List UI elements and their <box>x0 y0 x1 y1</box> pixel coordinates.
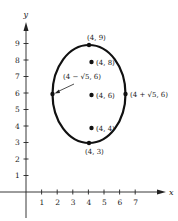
arrowhead-icon <box>55 90 61 94</box>
focus-upper-dot <box>89 60 93 64</box>
right-covertex-label: (4 + √5, 6) <box>130 91 168 99</box>
focus-lower-label: (4, 4) <box>96 125 115 133</box>
y-tick-label: 3 <box>15 138 20 147</box>
top-vertex-dot <box>87 43 91 47</box>
y-axis-label: y <box>23 10 29 19</box>
left-covertex-dot <box>50 92 54 96</box>
x-tick-label: 4 <box>86 198 91 207</box>
y-tick-labels: 1 2 3 4 5 6 7 8 9 <box>15 39 20 180</box>
x-tick-label: 7 <box>133 198 138 207</box>
center-label: (4, 6) <box>96 92 115 100</box>
x-tick-label: 6 <box>118 198 123 207</box>
y-axis-arrow-icon <box>24 22 29 31</box>
y-tick-label: 6 <box>15 89 20 98</box>
x-tick-label: 2 <box>55 198 60 207</box>
y-tick-label: 9 <box>15 39 20 48</box>
x-tick-label: 5 <box>102 198 107 207</box>
center-dot <box>89 93 93 97</box>
points <box>50 43 127 145</box>
x-axis-arrow-icon <box>157 190 166 195</box>
right-covertex-dot <box>123 92 127 96</box>
x-axis-label: x <box>169 188 174 197</box>
bottom-vertex-label: (4, 3) <box>85 148 104 156</box>
left-covertex-label: (4 − √5, 6) <box>63 73 101 81</box>
top-vertex-label: (4, 9) <box>87 34 106 42</box>
point-labels: (4, 9) (4, 8) (4, 6) (4, 4) (4, 3) (4 − … <box>63 34 168 156</box>
x-tick-label: 1 <box>40 198 45 207</box>
pointer-arrow <box>55 84 75 94</box>
focus-lower-dot <box>89 126 93 130</box>
y-tick-label: 4 <box>15 122 20 131</box>
y-tick-label: 5 <box>15 105 20 114</box>
y-tick-label: 1 <box>15 171 20 180</box>
y-tick-label: 2 <box>15 155 20 164</box>
x-tick-labels: 1 2 3 4 5 6 7 <box>40 198 139 207</box>
y-tick-label: 8 <box>15 56 20 65</box>
y-tick-label: 7 <box>15 72 20 81</box>
ellipse-diagram: x 1 2 3 4 5 6 7 y <box>0 0 178 221</box>
x-tick-label: 3 <box>71 198 76 207</box>
bottom-vertex-dot <box>87 141 91 145</box>
y-axis: y 1 2 3 4 5 6 7 8 9 <box>15 10 29 218</box>
focus-upper-label: (4, 8) <box>96 59 115 67</box>
